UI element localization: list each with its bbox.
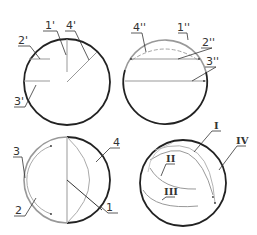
label-4-double-prime: 4'' — [133, 21, 146, 34]
label-III: III — [164, 186, 178, 197]
sphere-outline-iso — [140, 140, 226, 226]
label-2-prime: 2' — [18, 34, 28, 47]
label-3: 3 — [13, 145, 20, 158]
panel-bottom-right: I IV II III — [140, 120, 249, 226]
label-3-double-prime: 3'' — [206, 55, 219, 68]
panel-top-right: 4'' 1'' 2'' 3'' — [123, 21, 219, 124]
panel-bottom-left: 4 3 2 1 — [13, 136, 120, 223]
inner-arc-4 — [67, 137, 90, 223]
label-1-double-prime: 1'' — [177, 21, 190, 34]
line-4-prime — [67, 52, 97, 82]
sphere-outline-front-upper — [125, 40, 206, 72]
leader-II — [161, 164, 175, 176]
leader-1-double-prime — [178, 33, 188, 40]
label-4: 4 — [113, 136, 120, 149]
line-1 — [67, 180, 102, 210]
leader-3 — [13, 157, 25, 178]
sphere-outline-top-left-half — [24, 137, 67, 223]
panel-top-left: 1' 4' 2' 3' — [14, 19, 110, 125]
label-3-prime: 3' — [14, 95, 24, 108]
leader-3-double-prime — [192, 67, 216, 81]
label-1: 1 — [106, 201, 113, 214]
label-I: I — [214, 120, 219, 131]
dashed-arc-4-double-prime — [132, 49, 198, 60]
label-2: 2 — [15, 204, 22, 217]
leader-4 — [96, 148, 120, 162]
sphere-outline-top-right-half — [67, 137, 110, 223]
label-2-double-prime: 2'' — [202, 36, 215, 49]
leader-III — [162, 197, 175, 200]
sphere-outline-front-lower — [123, 70, 207, 124]
label-IV: IV — [236, 135, 249, 146]
sphere-projection-diagram: 1' 4' 2' 3' 4'' 1'' 2'' 3'' — [0, 0, 257, 235]
leader-4-prime — [65, 31, 89, 60]
label-II: II — [166, 153, 176, 164]
label-1-prime: 1' — [45, 19, 55, 32]
leader-I — [194, 131, 221, 152]
label-4-prime: 4' — [66, 19, 76, 32]
leader-1-prime — [43, 31, 66, 55]
